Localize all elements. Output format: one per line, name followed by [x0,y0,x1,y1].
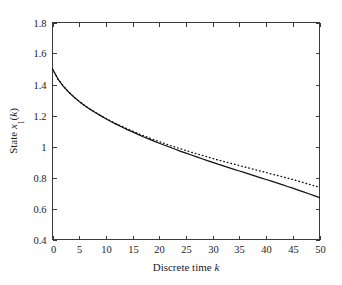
y-tick-label: 0.4 [33,235,47,246]
y-tick-label: 1.4 [33,80,47,91]
chart-canvas: 05101520253035404550 0.40.60.811.21.41.6… [0,0,342,285]
x-tick-label: 25 [181,244,192,255]
x-tick-label: 35 [234,244,245,255]
x-tick-label: 5 [77,244,82,255]
x-tick-label: 10 [101,244,112,255]
x-tick-label: 45 [288,244,299,255]
figure-background [0,0,342,285]
y-tick-label: 1.2 [33,111,46,122]
x-tick-label: 20 [154,244,165,255]
y-tick-label: 0.6 [33,204,46,215]
x-tick-label: 50 [315,244,326,255]
y-tick-label: 1 [41,142,46,153]
y-tick-label: 1.8 [33,18,46,29]
figure-container: 05101520253035404550 0.40.60.811.21.41.6… [0,0,342,285]
x-tick-label: 0 [51,244,56,255]
y-tick-label: 1.6 [33,48,46,59]
y-tick-label: 0.8 [33,173,46,184]
x-tick-label: 15 [128,244,139,255]
x-tick-label: 40 [261,244,272,255]
x-tick-label: 30 [208,244,219,255]
x-axis-title: Discrete time k [153,261,221,273]
